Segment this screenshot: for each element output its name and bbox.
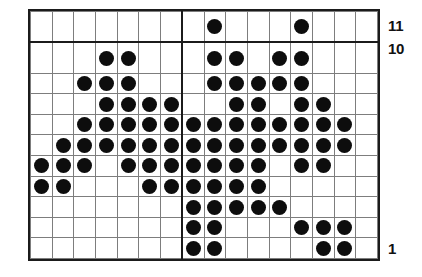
grid-cell-filled[interactable] (139, 176, 161, 197)
grid-cell-filled[interactable] (31, 176, 53, 197)
grid-cell-empty[interactable] (356, 197, 378, 218)
grid-cell-filled[interactable] (204, 12, 226, 43)
grid-cell-empty[interactable] (31, 12, 53, 43)
grid-cell-filled[interactable] (117, 135, 139, 156)
grid-cell-empty[interactable] (182, 12, 204, 43)
grid-cell-empty[interactable] (52, 94, 74, 115)
grid-cell-empty[interactable] (52, 197, 74, 218)
grid-cell-empty[interactable] (247, 238, 269, 259)
grid-cell-empty[interactable] (312, 12, 334, 43)
grid-cell-filled[interactable] (247, 135, 269, 156)
grid-cell-filled[interactable] (52, 135, 74, 156)
grid-cell-filled[interactable] (74, 156, 96, 177)
grid-cell-empty[interactable] (96, 176, 118, 197)
grid-cell-empty[interactable] (31, 238, 53, 259)
grid-cell-filled[interactable] (182, 156, 204, 177)
grid-cell-filled[interactable] (139, 94, 161, 115)
grid-cell-filled[interactable] (291, 135, 313, 156)
grid-cell-empty[interactable] (139, 42, 161, 73)
grid-cell-empty[interactable] (52, 238, 74, 259)
grid-cell-empty[interactable] (356, 12, 378, 43)
grid-cell-empty[interactable] (182, 94, 204, 115)
grid-cell-empty[interactable] (52, 12, 74, 43)
grid-cell-filled[interactable] (226, 42, 248, 73)
grid-cell-empty[interactable] (161, 238, 183, 259)
grid-cell-filled[interactable] (269, 73, 291, 94)
grid-cell-empty[interactable] (291, 197, 313, 218)
grid-cell-empty[interactable] (96, 217, 118, 238)
grid-cell-filled[interactable] (117, 114, 139, 135)
grid-cell-filled[interactable] (247, 114, 269, 135)
grid-cell-empty[interactable] (74, 217, 96, 238)
grid-cell-filled[interactable] (117, 42, 139, 73)
grid-cell-filled[interactable] (226, 135, 248, 156)
grid-cell-empty[interactable] (139, 238, 161, 259)
grid-cell-filled[interactable] (96, 135, 118, 156)
grid-cell-empty[interactable] (117, 197, 139, 218)
grid-cell-filled[interactable] (247, 176, 269, 197)
grid-cell-empty[interactable] (356, 114, 378, 135)
grid-cell-empty[interactable] (334, 176, 356, 197)
grid-cell-empty[interactable] (117, 217, 139, 238)
grid-cell-filled[interactable] (291, 114, 313, 135)
grid-cell-filled[interactable] (139, 135, 161, 156)
grid-cell-empty[interactable] (269, 217, 291, 238)
grid-cell-filled[interactable] (117, 156, 139, 177)
grid-cell-empty[interactable] (356, 94, 378, 115)
grid-cell-empty[interactable] (356, 156, 378, 177)
grid-cell-filled[interactable] (334, 135, 356, 156)
grid-cell-filled[interactable] (182, 217, 204, 238)
grid-cell-empty[interactable] (291, 176, 313, 197)
grid-cell-empty[interactable] (139, 12, 161, 43)
grid-cell-empty[interactable] (226, 217, 248, 238)
grid-cell-empty[interactable] (117, 12, 139, 43)
grid-cell-filled[interactable] (96, 42, 118, 73)
grid-cell-filled[interactable] (226, 114, 248, 135)
grid-cell-empty[interactable] (96, 156, 118, 177)
grid-cell-empty[interactable] (356, 217, 378, 238)
grid-cell-empty[interactable] (334, 42, 356, 73)
grid-cell-empty[interactable] (356, 73, 378, 94)
grid-cell-filled[interactable] (182, 176, 204, 197)
grid-cell-empty[interactable] (31, 42, 53, 73)
grid-cell-empty[interactable] (52, 42, 74, 73)
grid-cell-filled[interactable] (31, 156, 53, 177)
grid-cell-filled[interactable] (291, 12, 313, 43)
grid-cell-empty[interactable] (312, 42, 334, 73)
grid-cell-filled[interactable] (269, 197, 291, 218)
grid-cell-filled[interactable] (204, 176, 226, 197)
grid-cell-empty[interactable] (52, 217, 74, 238)
grid-cell-empty[interactable] (139, 73, 161, 94)
grid-cell-empty[interactable] (269, 94, 291, 115)
grid-cell-empty[interactable] (182, 42, 204, 73)
grid-cell-empty[interactable] (31, 73, 53, 94)
grid-cell-empty[interactable] (312, 176, 334, 197)
grid-cell-filled[interactable] (204, 156, 226, 177)
grid-cell-filled[interactable] (139, 156, 161, 177)
grid-cell-empty[interactable] (312, 197, 334, 218)
grid-cell-empty[interactable] (117, 238, 139, 259)
grid-cell-filled[interactable] (74, 114, 96, 135)
grid-cell-empty[interactable] (31, 114, 53, 135)
grid-cell-filled[interactable] (161, 135, 183, 156)
grid-cell-filled[interactable] (161, 176, 183, 197)
grid-cell-filled[interactable] (334, 114, 356, 135)
grid-cell-empty[interactable] (269, 156, 291, 177)
grid-cell-empty[interactable] (161, 42, 183, 73)
grid-cell-empty[interactable] (226, 12, 248, 43)
grid-cell-empty[interactable] (161, 73, 183, 94)
grid-cell-filled[interactable] (247, 156, 269, 177)
grid-cell-empty[interactable] (74, 12, 96, 43)
grid-cell-empty[interactable] (334, 94, 356, 115)
grid-cell-filled[interactable] (291, 42, 313, 73)
grid-cell-filled[interactable] (226, 156, 248, 177)
grid-cell-empty[interactable] (96, 12, 118, 43)
grid-cell-filled[interactable] (117, 73, 139, 94)
grid-cell-filled[interactable] (204, 217, 226, 238)
grid-cell-filled[interactable] (226, 197, 248, 218)
grid-cell-filled[interactable] (226, 94, 248, 115)
grid-cell-empty[interactable] (31, 135, 53, 156)
grid-cell-empty[interactable] (334, 197, 356, 218)
grid-cell-filled[interactable] (247, 197, 269, 218)
grid-cell-filled[interactable] (139, 114, 161, 135)
